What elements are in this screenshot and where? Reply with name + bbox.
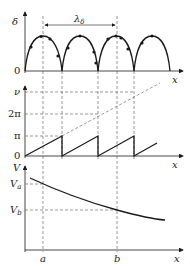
phase-origin-label: 0 (14, 151, 20, 161)
two-pi-tick-label: 2π (8, 109, 21, 119)
phase-x-label: x (172, 160, 178, 170)
delta-x-label: x (172, 75, 178, 85)
potential-panel (25, 166, 183, 252)
b-tick-label: b (114, 254, 120, 264)
a-tick-label: a (40, 254, 46, 264)
delta-origin-label: 0 (14, 66, 20, 76)
pi-tick-label: π (14, 131, 21, 141)
potential-x-label: x (174, 254, 180, 264)
phase-panel (25, 83, 183, 158)
diagram-figure: δ 0 x λδ ν 2π π 0 x V Va Vb a b x (0, 0, 190, 266)
va-tick-label: Va (10, 179, 21, 191)
vertical-guides (43, 16, 134, 252)
vb-tick-label: Vb (10, 205, 22, 217)
delta-panel (25, 12, 183, 73)
v-axis-label: V (13, 163, 20, 173)
diagram-svg (0, 0, 190, 266)
lambda-span-label: λδ (74, 14, 85, 26)
delta-axis-label: δ (12, 17, 18, 27)
nu-tick-label: ν (14, 87, 20, 97)
